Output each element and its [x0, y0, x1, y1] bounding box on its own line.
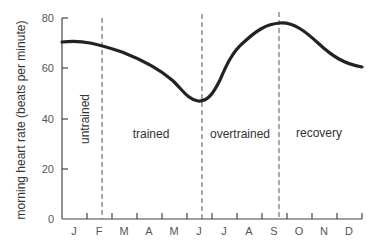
phase-label-untrained: untrained	[78, 94, 92, 144]
month-may: M	[169, 225, 178, 237]
month-sep: S	[270, 225, 277, 237]
month-apr: A	[145, 225, 153, 237]
heart-rate-curve	[62, 23, 362, 101]
phase-label-recovery: recovery	[296, 126, 342, 140]
x-ticks	[87, 213, 362, 219]
month-nov: N	[320, 225, 328, 237]
y-tick-40: 40	[42, 113, 54, 125]
month-aug: A	[245, 225, 253, 237]
y-tick-20: 20	[42, 163, 54, 175]
y-tick-labels: 0 20 40 60 80	[42, 12, 54, 225]
y-axis-title: morning heart rate (beats per minute)	[14, 21, 28, 220]
x-month-labels: J F M A M J J A S O N D	[71, 225, 353, 237]
month-mar: M	[119, 225, 128, 237]
y-tick-0: 0	[48, 213, 54, 225]
month-jul: J	[221, 225, 227, 237]
month-jan: J	[71, 225, 77, 237]
month-oct: O	[295, 225, 304, 237]
month-feb: F	[96, 225, 103, 237]
phase-dividers	[102, 12, 279, 219]
phase-label-overtrained: overtrained	[210, 127, 270, 141]
heart-rate-chart: morning heart rate (beats per minute) 0 …	[0, 0, 379, 247]
phase-label-trained: trained	[133, 127, 170, 141]
y-tick-80: 80	[42, 12, 54, 24]
month-dec: D	[345, 225, 353, 237]
y-tick-60: 60	[42, 62, 54, 74]
month-jun: J	[196, 225, 202, 237]
